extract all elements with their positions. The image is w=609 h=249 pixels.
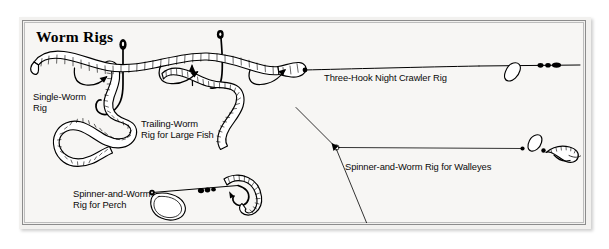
leader-line bbox=[479, 65, 580, 66]
bead bbox=[205, 188, 211, 193]
line-tie-hole bbox=[151, 192, 153, 194]
caption-single-worm-rig: Single-Worm Rig bbox=[33, 91, 86, 114]
hook-3-eye bbox=[303, 68, 308, 73]
night-crawler-body bbox=[34, 51, 279, 75]
rig-shaft bbox=[153, 186, 239, 193]
hook-1 bbox=[74, 68, 106, 85]
figure-page: .ln { fill:none; stroke:#000; stroke-wid… bbox=[0, 0, 609, 249]
clevis bbox=[541, 148, 545, 152]
caption-spinner-and-worm-rig-for-perch: Spinner-and-Worm Rig for Perch bbox=[73, 188, 150, 211]
hook-eye-hole bbox=[219, 33, 221, 36]
spinner-blade bbox=[528, 135, 542, 151]
bead bbox=[538, 63, 544, 68]
leader-line bbox=[339, 148, 522, 149]
bead bbox=[211, 187, 216, 191]
caption-three-hook-night-crawler-rig: Three-Hook Night Crawler Rig bbox=[324, 72, 447, 83]
night-crawler-tail bbox=[31, 62, 39, 74]
spinner-and-worm-rig-for-perch bbox=[149, 175, 261, 220]
caption-trailing-worm-rig: Trailing-Worm Rig for Large Fish bbox=[141, 118, 214, 141]
caption-spinner-and-worm-rig-for-walleyes: Spinner-and-Worm Rig for Walleyes bbox=[345, 161, 491, 172]
main-line bbox=[296, 108, 336, 148]
hook-eye-hole bbox=[122, 42, 124, 47]
bead bbox=[552, 63, 561, 68]
bead bbox=[198, 188, 204, 193]
hook-shank bbox=[233, 186, 249, 206]
hook-3-leader bbox=[305, 66, 479, 70]
page-title: Worm Rigs bbox=[36, 28, 113, 46]
bead bbox=[520, 146, 524, 150]
bead bbox=[545, 63, 551, 68]
